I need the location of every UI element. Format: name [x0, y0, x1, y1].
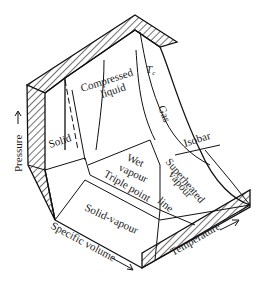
- label-critical-isotherm: Tc: [146, 63, 156, 77]
- label-isobar: Isobar: [182, 129, 212, 149]
- label-triple-line: line: [156, 194, 176, 214]
- axis-specific-volume-label: Specific volume: [49, 219, 118, 263]
- label-gas: Gas: [156, 104, 173, 124]
- label-solid-vapour: Solid-vapour: [83, 201, 140, 236]
- pvt-surface-diagram: Compressed liquid Tc Gas Solid Isobar We…: [0, 0, 265, 288]
- axis-pressure-label: Pressure: [12, 135, 24, 172]
- pressure-arrow-icon: [15, 111, 21, 124]
- label-solid: Solid: [47, 131, 73, 150]
- specific-volume-arrow-icon: [112, 258, 133, 270]
